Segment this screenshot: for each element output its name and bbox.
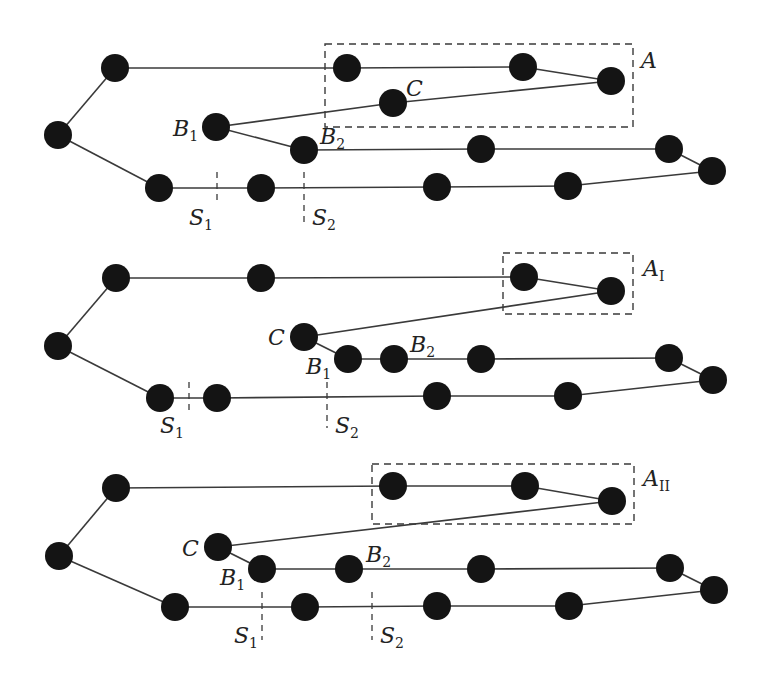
label-b2: B2 <box>365 542 391 570</box>
graph-node <box>655 344 683 372</box>
dashed-region-box <box>325 44 633 127</box>
graph-node <box>247 264 275 292</box>
graph-node <box>423 173 451 201</box>
edge <box>569 590 714 606</box>
graph-node <box>511 472 539 500</box>
graph-node <box>247 174 275 202</box>
graph-node <box>203 384 231 412</box>
label-c: C <box>268 325 285 350</box>
graph-node <box>698 157 726 185</box>
edge <box>481 568 670 569</box>
graph-node <box>290 136 318 164</box>
label-s1: S1 <box>234 623 258 651</box>
label-s2: S2 <box>335 413 359 441</box>
graph-node <box>509 53 537 81</box>
edge <box>216 103 393 127</box>
graph-node <box>554 382 582 410</box>
panel-middle: CB1B2S1S2AI <box>44 253 727 441</box>
graph-node <box>102 264 130 292</box>
edge <box>568 171 712 186</box>
graph-node <box>248 555 276 583</box>
graph-node <box>44 121 72 149</box>
graph-node <box>335 555 363 583</box>
edge <box>59 556 175 607</box>
graph-node <box>202 113 230 141</box>
graph-node <box>333 54 361 82</box>
graph-node <box>291 593 319 621</box>
label-a: A <box>639 48 657 73</box>
graph-node <box>145 174 173 202</box>
graph-node <box>423 592 451 620</box>
graph-node <box>423 382 451 410</box>
edge <box>261 187 437 188</box>
dashed-region-box <box>372 464 634 524</box>
label-b1: B1 <box>219 565 245 593</box>
edge <box>261 277 524 278</box>
label-s2: S2 <box>380 623 404 651</box>
edge <box>393 81 611 103</box>
label-c: C <box>182 536 199 561</box>
graph-node <box>555 592 583 620</box>
graph-node <box>467 345 495 373</box>
label-s1: S1 <box>160 413 184 441</box>
graph-node <box>146 384 174 412</box>
graph-node <box>467 135 495 163</box>
graph-node <box>379 89 407 117</box>
label-ai: AI <box>641 256 664 284</box>
graph-node <box>334 345 362 373</box>
edge <box>217 396 437 398</box>
label-aii: AII <box>641 466 670 494</box>
label-b2: B2 <box>409 332 435 360</box>
label-s1: S1 <box>189 205 213 233</box>
graph-node <box>380 345 408 373</box>
edge <box>218 501 612 547</box>
graph-node <box>204 533 232 561</box>
graph-node <box>290 323 318 351</box>
edge <box>304 149 481 150</box>
graph-node <box>554 172 582 200</box>
graph-node <box>44 332 72 360</box>
edge <box>116 486 393 488</box>
edge <box>481 358 669 359</box>
graph-node <box>656 554 684 582</box>
graph-node <box>699 366 727 394</box>
panel-top: B1B2CS1S2A <box>44 44 726 233</box>
edge <box>58 135 159 188</box>
label-c: C <box>406 76 423 101</box>
graph-node <box>510 263 538 291</box>
edge <box>58 346 160 398</box>
graph-node <box>597 67 625 95</box>
edge <box>347 67 523 68</box>
label-b1: B1 <box>172 116 198 144</box>
graph-node <box>161 593 189 621</box>
label-b1: B1 <box>305 354 331 382</box>
graph-node <box>102 474 130 502</box>
edge <box>568 380 713 396</box>
graph-node <box>598 487 626 515</box>
graph-node <box>655 135 683 163</box>
edge <box>305 606 437 607</box>
graph-node <box>101 54 129 82</box>
panel-bottom: CB1B2S1S2AII <box>45 464 728 651</box>
graph-node <box>45 542 73 570</box>
edge <box>304 291 611 337</box>
graph-node <box>467 555 495 583</box>
edge <box>437 186 568 187</box>
label-b2: B2 <box>319 124 345 152</box>
graph-node <box>379 472 407 500</box>
graph-node <box>597 277 625 305</box>
label-s2: S2 <box>312 205 336 233</box>
graph-diagram: B1B2CS1S2ACB1B2S1S2AICB1B2S1S2AII <box>0 0 770 682</box>
graph-node <box>700 576 728 604</box>
